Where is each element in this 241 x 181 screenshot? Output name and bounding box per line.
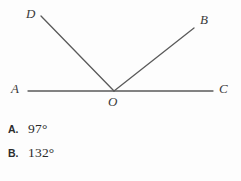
ray-ob	[114, 28, 194, 91]
point-label-d: D	[26, 7, 35, 20]
point-label-o: O	[108, 95, 117, 108]
point-label-b: B	[200, 13, 208, 26]
angle-diagram: D B A C O	[0, 0, 241, 121]
answer-choices: A. 97° B. 132°	[0, 122, 241, 170]
choice-letter-a: A.	[8, 124, 28, 135]
answer-choice-b[interactable]: B. 132°	[0, 146, 241, 170]
choice-value-b: 132°	[28, 146, 54, 160]
point-label-c: C	[219, 82, 228, 95]
choice-value-a: 97°	[28, 122, 48, 136]
choice-letter-b: B.	[8, 148, 28, 159]
point-label-a: A	[11, 82, 19, 95]
answer-choice-a[interactable]: A. 97°	[0, 122, 241, 146]
ray-od	[41, 16, 114, 91]
